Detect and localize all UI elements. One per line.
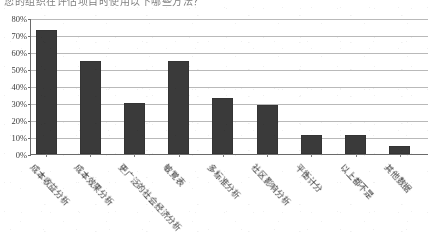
category-label: 多标准分析 [206,162,243,201]
y-axis-label: 0% [16,151,27,160]
bar [80,61,101,155]
bar [301,135,322,154]
category-label: 敏覚表 [161,162,186,188]
gridline [31,53,428,54]
x-axis-tick [223,154,224,157]
category-label: 其他数据 [382,162,413,195]
category-label: 以上都不是 [338,162,375,201]
x-axis-tick [311,154,312,157]
y-axis-tick [28,104,31,105]
plot-area: 0%10%20%30%40%50%60%70%80% [30,19,428,155]
y-axis-tick [28,19,31,20]
bar [257,105,278,154]
category-label: 平衡计分 [294,162,325,195]
y-axis-label: 30% [11,100,27,109]
gridline [31,19,428,20]
bar [389,146,410,155]
gridline [31,36,428,37]
bar-chart: 0%10%20%30%40%50%60%70%80% 成本收益分析成本效果分析更… [0,12,430,232]
y-axis-tick [28,121,31,122]
y-axis-tick [28,155,31,156]
x-axis-tick [46,154,47,157]
y-axis-tick [28,70,31,71]
category-label: 成本效果分析 [73,162,116,207]
y-axis-label: 40% [11,83,27,92]
x-axis-tick [134,154,135,157]
bar [345,135,366,154]
page-caption-cropped: 您的组织在评估项目时使用以下哪些方法？ [4,0,304,7]
category-axis-labels: 成本收益分析成本效果分析更广泛的社会经济分析敏覚表多标准分析社区影响分析平衡计分… [30,162,430,232]
y-axis-tick [28,36,31,37]
bar [36,30,57,154]
y-axis-tick [28,87,31,88]
bar [168,61,189,155]
bar [212,98,233,154]
category-label: 社区影响分析 [250,162,293,207]
x-axis-tick [400,154,401,157]
y-axis-label: 10% [11,134,27,143]
x-axis-tick [356,154,357,157]
y-axis-label: 70% [11,32,27,41]
x-axis-tick [267,154,268,157]
y-axis-tick [28,53,31,54]
y-axis-tick [28,138,31,139]
y-axis-label: 60% [11,49,27,58]
y-axis-label: 50% [11,66,27,75]
bar [124,103,145,154]
x-axis-tick [90,154,91,157]
category-label: 成本收益分析 [29,162,72,207]
y-axis-label: 20% [11,117,27,126]
y-axis-label: 80% [11,15,27,24]
x-axis-tick [179,154,180,157]
